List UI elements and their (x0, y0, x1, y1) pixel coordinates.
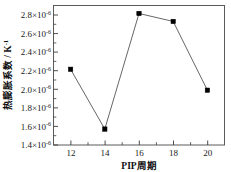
y-tick-label: 1.4×10 (21, 140, 47, 150)
y-axis-title: 热膨胀系数 / K-1 (2, 40, 14, 110)
x-tick-label: 14 (101, 148, 111, 158)
y-tick-label: 1.8×10 (21, 103, 47, 113)
y-tick-label: 1.6×10 (21, 122, 47, 132)
x-tick-label: 16 (135, 148, 145, 158)
y-tick-label: 2.0×10 (21, 85, 47, 95)
chart-figure: 1.4×10-6 1.6×10-6 1.8×10-6 2.0×10-6 2.2×… (0, 0, 231, 172)
y-tick-label: 2.8×10 (21, 10, 47, 20)
data-point (171, 19, 175, 23)
data-point (205, 88, 209, 92)
data-point (103, 127, 107, 131)
data-point (137, 11, 141, 15)
y-tick-label: 2.4×10 (21, 47, 47, 57)
y-tick-label: 2.2×10 (21, 66, 47, 76)
y-tick-label: 2.6×10 (21, 29, 47, 39)
thermal-expansion-line-chart: 1.4×10-6 1.6×10-6 1.8×10-6 2.0×10-6 2.2×… (0, 0, 231, 172)
x-tick-label: 20 (203, 148, 213, 158)
data-point (68, 67, 72, 71)
x-tick-label: 18 (169, 148, 179, 158)
x-axis-title: PIP周期 (121, 160, 156, 171)
x-tick-label: 12 (66, 148, 75, 158)
